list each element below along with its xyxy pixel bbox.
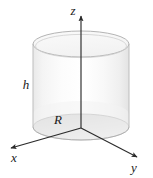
- y-axis-label: y: [129, 160, 137, 175]
- height-label: h: [23, 77, 30, 92]
- radius-label: R: [53, 112, 62, 127]
- x-axis-label: x: [10, 150, 17, 165]
- cylinder-diagram-svg: z x y h R: [0, 0, 153, 178]
- z-axis-label: z: [69, 3, 75, 18]
- cylinder-figure: z x y h R: [0, 0, 153, 178]
